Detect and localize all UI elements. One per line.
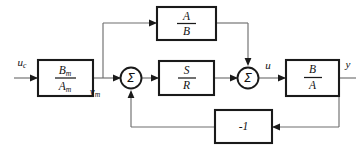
- block-feedforward-numerator: A: [182, 10, 191, 22]
- block-feedback-gain-minus-one[interactable]: -1: [215, 110, 272, 143]
- wire-sum-right-to-plant: [258, 75, 286, 82]
- signal-command-sub: c: [23, 61, 27, 70]
- block-feedback-gain-value: -1: [239, 120, 249, 132]
- block-model-denominator-sub: m: [66, 84, 72, 93]
- block-model-bm-am[interactable]: Bm Am: [38, 60, 93, 96]
- wire-feedforward-to-sum-right: [216, 23, 251, 66]
- signal-label-control-input: u: [265, 59, 271, 71]
- wire-controller-to-sum-right: [214, 75, 238, 82]
- signal-label-command-input: uc: [18, 56, 28, 70]
- block-feedforward-a-b[interactable]: A B: [157, 7, 216, 40]
- block-feedforward-denominator: B: [183, 25, 190, 37]
- block-model-numerator-sub: m: [66, 68, 72, 77]
- block-model-numerator: B: [59, 64, 66, 76]
- wire-node-to-sum-left: [103, 75, 121, 82]
- block-controller-numerator: S: [184, 64, 190, 76]
- block-diagram: Bm Am A B S R B A: [0, 0, 362, 153]
- block-plant-b-a[interactable]: B A: [286, 60, 339, 96]
- block-plant-numerator: B: [309, 63, 316, 75]
- svg-text:ym: ym: [89, 85, 101, 99]
- signal-label-model-output: ym: [89, 85, 101, 99]
- diagram-canvas: Bm Am A B S R B A: [0, 0, 362, 153]
- block-plant-denominator: A: [308, 79, 317, 91]
- block-controller-denominator: R: [182, 79, 190, 91]
- summing-junction-right-symbol: Σ: [244, 70, 252, 85]
- signal-control-base: u: [265, 59, 271, 71]
- signal-label-plant-output: y: [345, 58, 351, 70]
- signal-model-output-sub: m: [95, 90, 101, 99]
- wire-sum-left-to-controller: [141, 75, 159, 82]
- summing-junction-right[interactable]: Σ: [238, 68, 259, 89]
- summing-junction-left[interactable]: Σ: [121, 68, 142, 89]
- block-controller-s-r[interactable]: S R: [159, 61, 214, 95]
- svg-text:uc: uc: [18, 56, 28, 70]
- wire-command-to-model: [14, 75, 38, 82]
- summing-junction-left-symbol: Σ: [127, 70, 135, 85]
- signal-plant-output-base: y: [345, 58, 351, 70]
